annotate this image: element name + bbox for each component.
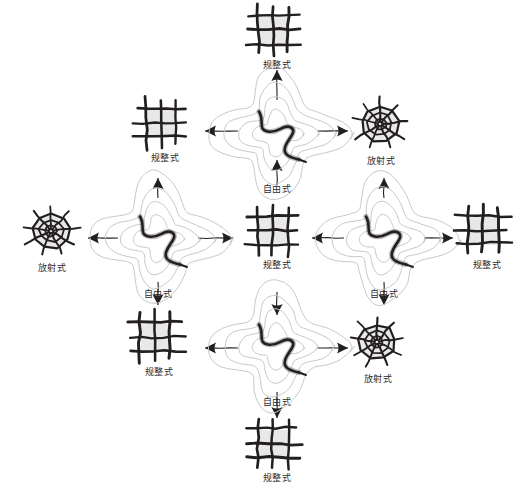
river-contour-pattern-icon xyxy=(211,77,343,199)
river-contour-pattern-icon xyxy=(211,290,343,412)
node-radial-n-tr[interactable]: 放射式 xyxy=(349,96,413,166)
node-radial-n-br[interactable]: 放射式 xyxy=(346,314,410,384)
node-label: 放射式 xyxy=(364,375,392,384)
radial-web-pattern-icon xyxy=(20,203,84,263)
node-regular-n-tl[interactable]: 规整式 xyxy=(136,99,194,163)
node-regular-n-bottom[interactable]: 规整式 xyxy=(248,419,306,483)
grid-pattern-icon xyxy=(248,6,306,60)
grid-pattern-icon xyxy=(248,419,306,473)
river-contour-pattern-icon xyxy=(318,182,450,304)
node-regular-n-center[interactable]: 规整式 xyxy=(248,206,306,270)
grid-pattern-icon xyxy=(458,206,516,260)
node-regular-n-right[interactable]: 规整式 xyxy=(458,206,516,270)
grid-pattern-icon xyxy=(136,99,194,153)
node-free-n-t-free[interactable]: 自由式 xyxy=(211,77,343,194)
grid-pattern-icon xyxy=(248,206,306,260)
radial-web-pattern-icon xyxy=(346,314,410,374)
node-free-n-r-free[interactable]: 自由式 xyxy=(318,182,450,299)
diagram-canvas: 规整式规整式自由式放射式放射式自由式规整式自由式规整式规整式自由式放射式规整式 xyxy=(0,0,518,490)
node-label: 规整式 xyxy=(263,261,291,270)
river-contour-pattern-icon xyxy=(92,182,224,304)
node-label: 规整式 xyxy=(473,261,501,270)
node-label: 规整式 xyxy=(263,474,291,483)
node-regular-n-top[interactable]: 规整式 xyxy=(248,6,306,70)
node-label: 规整式 xyxy=(151,154,179,163)
radial-web-pattern-icon xyxy=(349,96,413,156)
node-label: 放射式 xyxy=(367,157,395,166)
node-radial-n-left[interactable]: 放射式 xyxy=(20,203,84,273)
node-label: 规整式 xyxy=(145,368,173,377)
node-label: 放射式 xyxy=(38,264,66,273)
node-free-n-b-free[interactable]: 自由式 xyxy=(211,290,343,407)
node-free-n-l-free[interactable]: 自由式 xyxy=(92,182,224,299)
grid-pattern-icon xyxy=(130,313,188,367)
node-regular-n-bl[interactable]: 规整式 xyxy=(130,313,188,377)
